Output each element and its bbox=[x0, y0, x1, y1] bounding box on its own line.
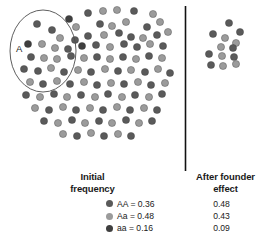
individual-dot bbox=[145, 93, 152, 100]
individual-dot bbox=[113, 6, 120, 13]
individual-dot bbox=[53, 77, 60, 84]
genotype-swatch-icon bbox=[106, 213, 113, 220]
individual-dot bbox=[64, 45, 71, 52]
individual-dot bbox=[225, 19, 232, 26]
column-header-initial-frequency: Initial frequency bbox=[0, 171, 185, 194]
individual-dot bbox=[96, 20, 103, 27]
column-header-after-founder-effect: After founder effect bbox=[185, 171, 266, 194]
individual-dot bbox=[120, 80, 127, 87]
individual-dot bbox=[158, 54, 165, 61]
individual-dot bbox=[154, 65, 161, 72]
individual-dot bbox=[209, 30, 216, 37]
individual-dot bbox=[107, 79, 114, 86]
legend-swatch-cell bbox=[0, 225, 117, 232]
individual-dot bbox=[148, 117, 155, 124]
individual-dot bbox=[33, 20, 40, 27]
individual-dot bbox=[24, 40, 31, 47]
founder-population-dots bbox=[205, 19, 243, 69]
individual-dot bbox=[115, 29, 122, 36]
individual-dot bbox=[140, 104, 147, 111]
individual-dot bbox=[134, 78, 141, 85]
individual-dot bbox=[66, 80, 73, 87]
individual-dot bbox=[80, 78, 87, 85]
individual-dot bbox=[113, 103, 120, 110]
individual-dot bbox=[114, 130, 121, 137]
individual-dot bbox=[122, 18, 129, 25]
individual-dot bbox=[51, 44, 58, 51]
legend-row: AA = 0.36 0.48 bbox=[0, 198, 266, 210]
individual-dot bbox=[59, 103, 66, 110]
individual-dot bbox=[38, 40, 45, 47]
individual-dot bbox=[40, 54, 47, 61]
individual-dot bbox=[158, 90, 165, 97]
individual-dot bbox=[236, 28, 243, 35]
individual-dot bbox=[108, 22, 115, 29]
individual-dot bbox=[34, 67, 41, 74]
individual-dot bbox=[114, 67, 121, 74]
legend-rows: AA = 0.36 0.48 Aa = 0.48 0.43 aa = 0.16 … bbox=[0, 198, 266, 235]
individual-dot bbox=[100, 31, 107, 38]
individual-dot bbox=[232, 60, 239, 67]
individual-dot bbox=[27, 53, 34, 60]
legend-row: aa = 0.16 0.09 bbox=[0, 223, 266, 235]
legend-row: Aa = 0.48 0.43 bbox=[0, 210, 266, 222]
individual-dot bbox=[48, 26, 55, 33]
legend-swatch-cell bbox=[0, 200, 117, 207]
genotype-swatch-icon bbox=[106, 225, 113, 232]
column-headers: Initial frequency After founder effect bbox=[0, 171, 266, 194]
individual-dot bbox=[104, 90, 111, 97]
individual-dot bbox=[93, 53, 100, 60]
individual-dot bbox=[131, 91, 138, 98]
individual-dot bbox=[68, 116, 75, 123]
individual-dot bbox=[93, 81, 100, 88]
individual-dot bbox=[229, 44, 236, 51]
initial-header-line2: frequency bbox=[0, 183, 185, 195]
legend-after-value: 0.09 bbox=[181, 223, 262, 233]
individual-dot bbox=[99, 7, 106, 14]
individual-dot bbox=[40, 117, 47, 124]
founder-effect-figure: A Initial frequency After founder effect… bbox=[0, 0, 266, 246]
individual-dot bbox=[119, 53, 126, 60]
individual-dot bbox=[22, 91, 29, 98]
legend-genotype-label: aa = 0.16 bbox=[117, 223, 181, 233]
individual-dot bbox=[87, 129, 94, 136]
individual-dot bbox=[130, 7, 137, 14]
individual-dot bbox=[127, 132, 134, 139]
individual-dot bbox=[77, 91, 84, 98]
individual-dot bbox=[78, 42, 85, 49]
individual-dot bbox=[95, 117, 102, 124]
individual-dot bbox=[67, 52, 74, 59]
legend-genotype-label: Aa = 0.48 bbox=[117, 211, 181, 221]
individual-dot bbox=[108, 119, 115, 126]
individual-dot bbox=[166, 69, 173, 76]
individual-dot bbox=[156, 18, 163, 25]
individual-dot bbox=[141, 68, 148, 75]
individual-dot bbox=[161, 79, 168, 86]
individual-dot bbox=[106, 43, 113, 50]
individual-dot bbox=[133, 43, 140, 50]
individual-dot bbox=[36, 93, 43, 100]
individual-dot bbox=[72, 23, 79, 30]
individual-dot bbox=[120, 40, 127, 47]
legend-after-value: 0.43 bbox=[181, 211, 262, 221]
individual-dot bbox=[92, 41, 99, 48]
individual-dot bbox=[53, 55, 60, 62]
individual-dot bbox=[143, 23, 150, 30]
individual-dot bbox=[127, 33, 134, 40]
individual-dot bbox=[47, 64, 54, 71]
individual-dot bbox=[106, 55, 113, 62]
individual-dot bbox=[217, 43, 224, 50]
individual-dot bbox=[50, 90, 57, 97]
individual-dot bbox=[153, 106, 160, 113]
legend-swatch-cell bbox=[0, 213, 117, 220]
individual-dot bbox=[127, 66, 134, 73]
legend-genotype-label: AA = 0.36 bbox=[117, 199, 181, 209]
individual-dot bbox=[132, 55, 139, 62]
individual-dot bbox=[149, 10, 156, 17]
legend-area: Initial frequency After founder effect A… bbox=[0, 168, 266, 246]
individual-dot bbox=[60, 68, 67, 75]
individual-dot bbox=[122, 116, 129, 123]
individual-dot bbox=[205, 50, 212, 57]
individual-dot bbox=[218, 52, 225, 59]
individual-dot bbox=[135, 119, 142, 126]
